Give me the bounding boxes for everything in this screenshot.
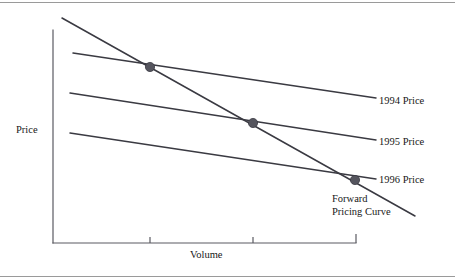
chart-figure: Price Volume 1994 Price 1995 Price 1996 …: [0, 0, 455, 280]
x-axis-title: Volume: [190, 249, 222, 262]
forward-label-line-1: Forward: [332, 192, 391, 205]
series-line-1995-price: [70, 93, 376, 140]
series-label-1994-price: 1994 Price: [379, 95, 424, 108]
intersection-marker-1996: [350, 175, 359, 184]
y-axis-title: Price: [16, 124, 38, 137]
forward-label-line-2: Pricing Curve: [332, 205, 391, 218]
series-line-1994-price: [73, 53, 376, 98]
series-line-forward-pricing-curve: [62, 18, 415, 216]
intersection-marker-1994: [145, 62, 154, 71]
intersection-marker-1995: [248, 118, 257, 127]
series-label-1996-price: 1996 Price: [379, 174, 424, 187]
series-label-forward-pricing-curve: Forward Pricing Curve: [332, 192, 391, 219]
series-line-1996-price: [70, 133, 376, 179]
series-label-1995-price: 1995 Price: [379, 136, 424, 149]
